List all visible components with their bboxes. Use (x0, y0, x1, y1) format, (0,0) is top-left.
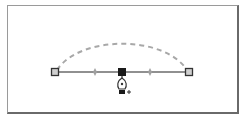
midpoint-marker (148, 68, 152, 76)
pen-tool-cursor-icon (118, 76, 126, 94)
selected-middle-anchor-point[interactable] (118, 68, 126, 76)
right-anchor-point[interactable] (186, 69, 193, 76)
path-editing-canvas[interactable] (0, 0, 243, 120)
midpoint-marker (93, 68, 97, 76)
add-anchor-plus-icon (127, 90, 131, 94)
dashed-curve-preview (57, 44, 187, 70)
left-anchor-point[interactable] (52, 69, 59, 76)
